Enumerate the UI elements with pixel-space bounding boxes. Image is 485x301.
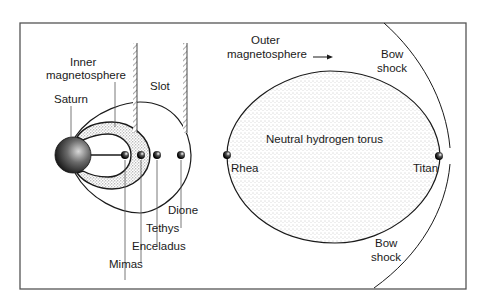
saturn-planet [55,137,91,173]
arrow-head-icon [327,55,333,60]
moon-mimas [121,151,129,159]
moon-tethys [153,151,161,159]
slot-wall-outer [183,43,187,133]
moon-titan [435,152,443,160]
label-bow-top-line1: Bow [381,48,404,60]
slot-wall-inner [133,43,137,133]
label-outer-line2: magnetosphere [227,48,307,60]
moon-enceladus [137,151,145,159]
neutral-hydrogen-torus [227,71,440,243]
label-bow-top-line2: shock [377,62,407,74]
moon-dione [177,151,185,159]
label-saturn: Saturn [54,93,88,105]
label-inner-line1: Inner [70,56,96,68]
label-inner-line2: magnetosphere [46,69,126,81]
label-torus: Neutral hydrogen torus [266,133,383,145]
label-titan: Titan [413,162,438,174]
saturn-magnetosphere-diagram: Inner magnetosphere Saturn Slot Dione Te… [0,0,485,301]
label-dione: Dione [168,204,198,216]
label-mimas: Mimas [109,258,143,270]
label-rhea: Rhea [231,162,259,174]
label-bow-bottom-line2: shock [371,251,401,263]
label-tethys: Tethys [146,222,179,234]
label-enceladus: Enceladus [132,240,186,252]
label-slot: Slot [150,80,171,92]
label-bow-bottom-line1: Bow [375,237,398,249]
label-outer-line1: Outer [251,34,280,46]
moon-rhea [223,151,231,159]
